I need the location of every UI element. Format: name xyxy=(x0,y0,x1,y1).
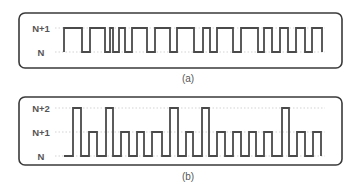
panel-a-caption: (a) xyxy=(182,73,194,84)
panel-a-frame xyxy=(19,13,342,68)
level-label: N xyxy=(38,151,45,162)
level-label: N+1 xyxy=(32,23,50,34)
panel-a-waveform xyxy=(64,28,322,52)
panel-b-waveform xyxy=(64,108,321,156)
level-label: N+2 xyxy=(32,103,50,114)
panel-a-level-labels: N+1N xyxy=(32,23,50,58)
level-label: N+1 xyxy=(32,127,50,138)
level-label: N xyxy=(38,47,45,58)
panel-a-level-lines xyxy=(55,28,325,52)
panel-a: N+1N (a) xyxy=(19,13,342,84)
panel-b: N+2N+1N (b) xyxy=(19,97,342,182)
panel-b-level-labels: N+2N+1N xyxy=(32,103,50,162)
panel-b-frame xyxy=(19,97,342,165)
panel-b-caption: (b) xyxy=(182,171,194,182)
waveform-diagram: N+1N (a) N+2N+1N (b) xyxy=(0,0,357,193)
